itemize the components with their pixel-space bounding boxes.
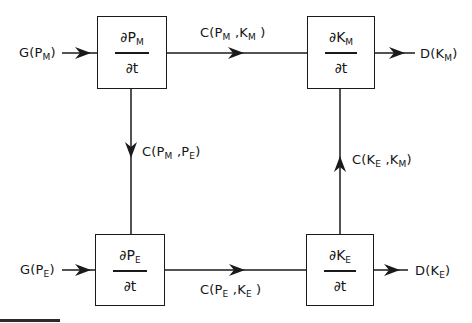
node-dpm-dt: ∂PM ∂t — [97, 16, 167, 89]
node-dpe-dt: ∂PE ∂t — [95, 234, 165, 306]
denominator: ∂t — [96, 279, 164, 293]
denominator: ∂t — [98, 61, 166, 75]
footer-rule — [0, 319, 60, 322]
edge-label-c-pm-km: C(PM ,KM ) — [200, 26, 266, 39]
numerator: ∂PM — [98, 30, 166, 44]
output-label-d-km: D(KM) — [420, 47, 457, 60]
fraction-bar — [115, 52, 149, 54]
numerator: ∂KM — [308, 30, 374, 44]
fraction-bar — [325, 52, 357, 54]
input-label-g-pe: G(PE) — [20, 263, 55, 276]
edge-label-c-pm-pe: C(PM ,PE) — [142, 145, 200, 158]
numerator: ∂PE — [96, 248, 164, 262]
edge-label-c-pe-ke: C(PE ,KE ) — [200, 283, 261, 296]
numerator: ∂KE — [307, 248, 373, 262]
output-label-d-ke: D(KE) — [415, 264, 450, 277]
edge-label-c-ke-km: C(KE ,KM) — [352, 153, 412, 166]
fraction-bar — [324, 270, 356, 272]
denominator: ∂t — [307, 279, 373, 293]
denominator: ∂t — [308, 61, 374, 75]
fraction-bar — [113, 270, 147, 272]
node-dkm-dt: ∂KM ∂t — [307, 16, 375, 89]
node-dke-dt: ∂KE ∂t — [306, 234, 374, 306]
input-label-g-pm: G(PM) — [19, 46, 56, 59]
